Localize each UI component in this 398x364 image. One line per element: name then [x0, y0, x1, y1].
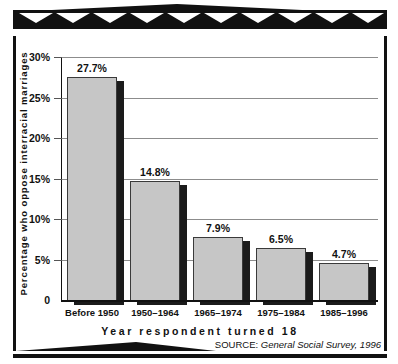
- y-tick-30: [54, 57, 62, 58]
- y-axis-label-15: 15%: [29, 173, 50, 185]
- bar-1985-1996[interactable]: [319, 263, 369, 301]
- source-label: SOURCE:: [215, 339, 258, 350]
- y-axis-label-0: 0: [44, 294, 50, 306]
- source-text: General Social Survey, 1996: [258, 339, 381, 350]
- y-axis-label-30: 30%: [29, 51, 50, 63]
- y-tick-20: [54, 138, 62, 139]
- bar-1950-1964[interactable]: [130, 181, 180, 301]
- y-axis-label-20: 20%: [29, 132, 50, 144]
- y-tick-5: [54, 260, 62, 261]
- y-axis-label-10: 10%: [29, 213, 50, 225]
- gridline-30: [62, 57, 378, 58]
- bar-1965-1974[interactable]: [193, 237, 243, 301]
- bar-1975-1984[interactable]: [256, 248, 306, 301]
- bar-value-2: 7.9%: [185, 222, 251, 234]
- plot-area: 30% 25% 20% 15% 10% 5% 0 27.7% 14.8% 7.9…: [62, 57, 378, 301]
- x-axis-label-4: 1985–1996: [306, 307, 382, 318]
- y-tick-10: [54, 219, 62, 220]
- chevron-band-icon: [13, 10, 387, 29]
- x-axis-title: Year respondent turned 18: [20, 325, 380, 337]
- source-note: SOURCE: General Social Survey, 1996: [0, 339, 381, 350]
- y-tick-15: [54, 179, 62, 180]
- top-decoration-band: [13, 4, 387, 30]
- chart-figure: Percentage who oppose interracial marria…: [0, 0, 398, 364]
- bar-before-1950[interactable]: [67, 77, 117, 301]
- bar-value-0: 27.7%: [59, 62, 125, 74]
- frame-rule-bottom: [13, 354, 387, 358]
- y-axis-title: Percentage who oppose interracial marria…: [18, 29, 29, 319]
- bar-value-3: 6.5%: [248, 233, 314, 245]
- y-tick-25: [54, 98, 62, 99]
- x-axis-line: [61, 300, 378, 302]
- bar-value-4: 4.7%: [311, 248, 377, 260]
- bar-value-1: 14.8%: [122, 166, 188, 178]
- y-axis-label-5: 5%: [35, 254, 50, 266]
- frame-rule-right: [384, 36, 387, 351]
- y-axis-label-25: 25%: [29, 92, 50, 104]
- frame-rule-left: [13, 36, 16, 351]
